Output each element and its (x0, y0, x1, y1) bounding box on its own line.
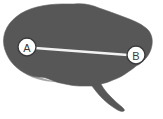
marker-b-label: B (132, 50, 139, 62)
brain-diagram-canvas: A B (0, 0, 163, 119)
brain-diagram-figure: A B (0, 0, 163, 119)
marker-a[interactable]: A (18, 38, 36, 56)
marker-a-label: A (23, 42, 31, 54)
marker-b[interactable]: B (127, 46, 145, 64)
